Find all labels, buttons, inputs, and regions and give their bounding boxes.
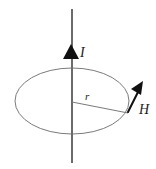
- field-label: H: [138, 102, 150, 117]
- physics-figure: I r H: [0, 0, 156, 169]
- radius-label: r: [85, 90, 90, 102]
- current-label: I: [79, 45, 86, 60]
- diagram-canvas: I r H: [0, 0, 156, 169]
- current-direction-arrowhead: [63, 44, 79, 59]
- radius-line: [72, 102, 128, 113]
- field-vector-shaft: [128, 90, 139, 112]
